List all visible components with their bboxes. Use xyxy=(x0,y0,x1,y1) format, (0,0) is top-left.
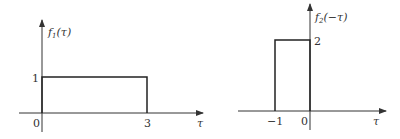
right-x-tick-neg1: −1 xyxy=(267,115,283,128)
left-x-tick-0: 0 xyxy=(33,117,40,130)
left-rect-signal xyxy=(42,77,147,113)
right-rect-signal xyxy=(275,40,310,111)
left-x-tick-3: 3 xyxy=(144,117,151,130)
left-ylabel: f1(τ) xyxy=(47,26,71,40)
right-y-tick-2: 2 xyxy=(314,35,321,48)
right-xlabel: τ xyxy=(373,115,380,128)
convolution-diagram: f1(τ) 1 0 3 τ f2(−τ) 2 −1 0 τ xyxy=(0,0,400,139)
left-xlabel: τ xyxy=(197,117,204,130)
left-y-tick-1: 1 xyxy=(32,72,39,85)
right-ylabel: f2(−τ) xyxy=(314,11,347,25)
left-plot: f1(τ) 1 0 3 τ xyxy=(19,20,204,132)
right-x-tick-0: 0 xyxy=(301,115,308,128)
right-plot: f2(−τ) 2 −1 0 τ xyxy=(238,4,386,130)
